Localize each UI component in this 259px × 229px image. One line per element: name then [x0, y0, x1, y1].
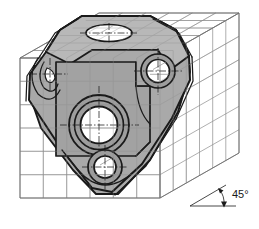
angle-label: 45°	[232, 188, 249, 200]
oblique-projection-figure: .gl{stroke:#8c8c8c;stroke-width:0.7;fill…	[0, 0, 259, 229]
technical-drawing-canvas: .gl{stroke:#8c8c8c;stroke-width:0.7;fill…	[0, 0, 259, 229]
